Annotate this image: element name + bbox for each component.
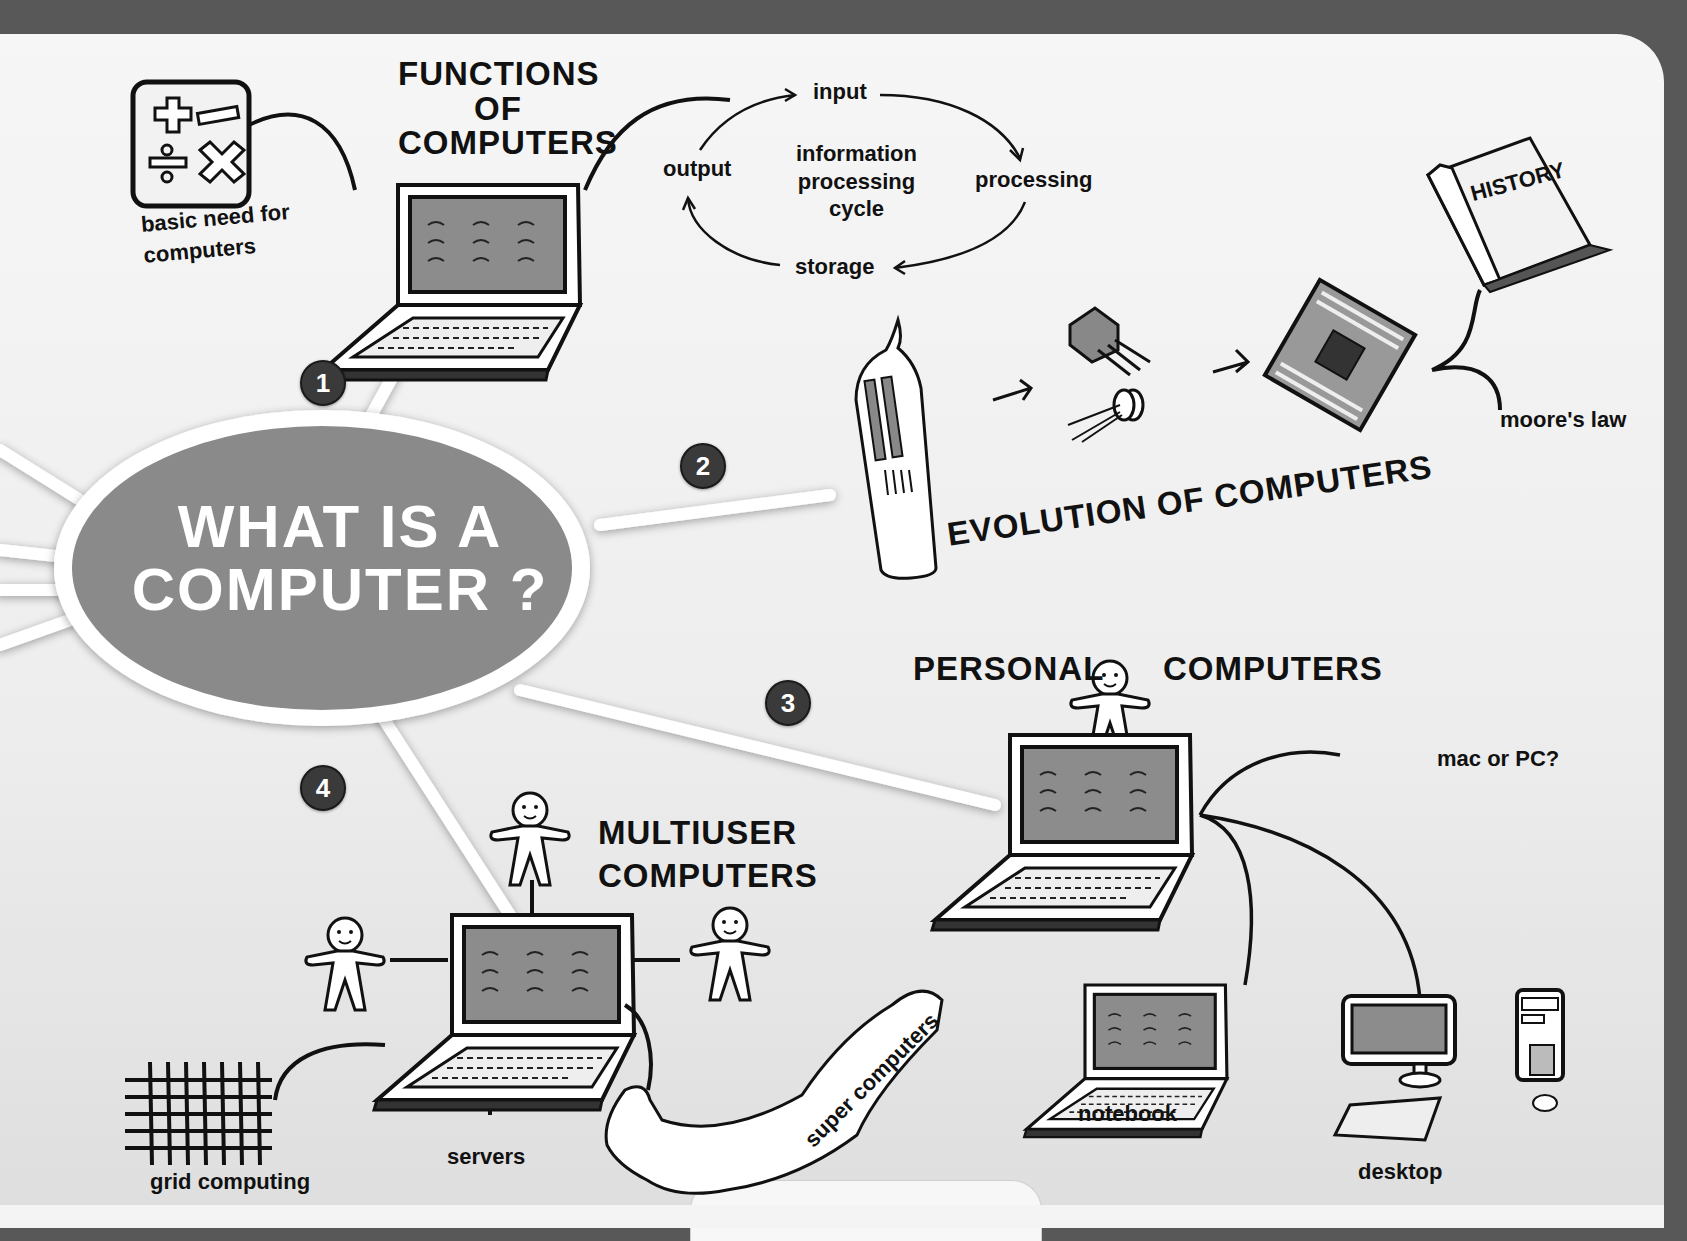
desktop-icon	[1335, 990, 1563, 1140]
cycle-line: information	[794, 140, 919, 168]
math-symbols-icon	[133, 82, 249, 206]
title-line: COMPUTERS	[398, 126, 598, 161]
personal-computers-title-left: PERSONAL	[913, 652, 1104, 687]
cycle-step-processing: processing	[975, 168, 1092, 191]
grid-computing-label: grid computing	[150, 1170, 310, 1193]
microprocessor-icon	[1265, 280, 1415, 430]
notebook-label: notebook	[1078, 1102, 1177, 1125]
branch-number-badge: 1	[300, 360, 346, 406]
central-topic: WHAT IS A COMPUTER ?	[90, 495, 590, 621]
information-processing-cycle-label: information processing cycle	[794, 140, 919, 223]
cycle-step-input: input	[813, 80, 867, 103]
page-bottom-edge	[0, 1205, 1664, 1228]
history-book-icon	[1428, 138, 1610, 292]
cycle-step-output: output	[663, 157, 731, 180]
vacuum-tube-icon	[856, 320, 936, 578]
moores-law-label: moore's law	[1500, 408, 1626, 431]
mac-or-pc-label: mac or PC?	[1437, 747, 1559, 770]
personal-computers-title-right: COMPUTERS	[1163, 652, 1383, 687]
cycle-line: processing	[794, 168, 919, 196]
cycle-line: cycle	[794, 195, 919, 223]
central-topic-line1: WHAT IS A	[90, 495, 590, 558]
person-icon	[691, 908, 769, 1000]
person-icon	[491, 793, 569, 885]
desktop-label: desktop	[1358, 1160, 1442, 1183]
servers-label: servers	[447, 1145, 525, 1168]
laptop-icon	[932, 735, 1192, 930]
person-icon	[306, 918, 384, 1010]
branch-number-badge: 3	[765, 680, 811, 726]
title-line: FUNCTIONS	[398, 57, 598, 92]
title-line: COMPUTERS	[598, 855, 818, 898]
server-laptop-icon	[374, 915, 634, 1110]
functions-of-computers-title: FUNCTIONS OF COMPUTERS	[398, 57, 598, 161]
arm-icon	[606, 991, 942, 1193]
branch-number-badge: 4	[300, 765, 346, 811]
title-line: MULTIUSER	[598, 812, 818, 855]
grid-icon	[125, 1062, 272, 1165]
branch-number-badge: 2	[680, 443, 726, 489]
central-topic-line2: COMPUTER ?	[90, 558, 590, 621]
multiuser-computers-title: MULTIUSER COMPUTERS	[598, 812, 818, 898]
laptop-icon	[320, 185, 580, 380]
cycle-step-storage: storage	[795, 255, 874, 278]
transistor-icon	[1068, 308, 1150, 442]
title-line: OF	[398, 92, 598, 127]
